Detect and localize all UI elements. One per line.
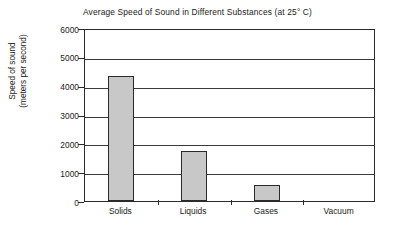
category-separator [158,200,159,205]
bar-chart-figure: Average Speed of Sound in Different Subs… [0,0,395,225]
y-tick-label: 4000 [33,83,79,91]
bar-slot-solids [85,30,158,201]
bar-slot-gases [231,30,304,201]
y-tick-label: 5000 [33,54,79,62]
y-tick-label: 3000 [33,112,79,120]
bar-gases [254,185,280,201]
category-separator [303,200,304,205]
y-axis-title: Speed of sound (meters per second) [8,6,34,136]
x-axis-labels: Solids Liquids Gases Vacuum [84,206,375,220]
y-tick-mark [78,202,84,203]
y-tick-label: 1000 [33,170,79,178]
y-axis-title-line-1: Speed of sound [8,6,19,136]
bars-layer [85,30,374,201]
x-label-vacuum: Vacuum [302,206,375,216]
x-label-solids: Solids [84,206,157,216]
chart-title: Average Speed of Sound in Different Subs… [0,7,395,17]
y-tick-label: 2000 [33,141,79,149]
bar-liquids [181,151,207,201]
y-tick-label: 0 [33,199,79,207]
x-label-liquids: Liquids [157,206,230,216]
category-separator [231,200,232,205]
bar-slot-liquids [158,30,231,201]
y-tick-label: 6000 [33,26,79,34]
y-axis-title-line-2: (meters per second) [19,6,30,136]
plot-area [84,29,375,202]
bar-slot-vacuum [303,30,376,201]
x-label-gases: Gases [230,206,303,216]
bar-solids [108,76,134,201]
